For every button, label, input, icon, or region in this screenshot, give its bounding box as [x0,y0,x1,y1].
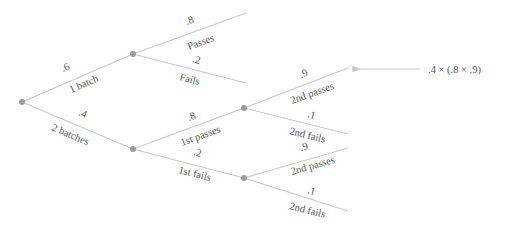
one-batch-node [130,51,136,57]
prob-2-batches: .4 [77,107,89,120]
label-2nd-fails-b: 2nd fails [289,200,327,219]
prob-2nd-fails-b: .1 [307,184,317,197]
prob-2nd-passes-b: .9 [299,140,310,153]
prob-2nd-passes-a: .9 [298,67,309,80]
two-batches-node [130,146,136,152]
label-2nd-passes-a: 2nd passes [289,80,335,106]
prob-1st-passes: .8 [186,110,197,123]
annotation-text: .4 × (.8 × .9) [428,64,481,76]
prob-2nd-fails-a: .1 [307,108,317,121]
label-1st-fails: 1st fails [178,164,213,183]
label-1-batch: 1 batch [67,72,100,94]
label-passes: Passes [186,32,216,52]
prob-passes: .8 [184,14,195,27]
prob-1-batch: .6 [59,61,71,74]
label-2-batches: 2 batches [50,122,91,148]
prob-fails: .2 [192,53,202,66]
label-2nd-fails-a: 2nd fails [289,125,327,144]
probability-tree: .6 1 batch .4 2 batches .8 Passes .2 Fai… [0,0,508,231]
root-node [19,99,25,105]
label-fails: Fails [179,71,201,87]
label-1st-passes: 1st passes [179,123,222,148]
edge-1-batch [22,54,133,102]
first-passes-node [241,105,247,111]
first-fails-node [241,175,247,181]
label-2nd-passes-b: 2nd passes [290,154,336,177]
prob-1st-fails: .2 [193,146,203,159]
